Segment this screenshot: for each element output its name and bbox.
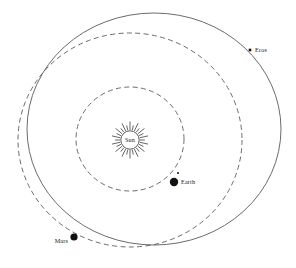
earth-marker-icon (170, 178, 178, 186)
eros-marker-group: Eros (249, 46, 268, 53)
mars-marker-group: Mars (55, 233, 78, 244)
sun-symbol-group: Sun (112, 122, 148, 159)
mars-label: Mars (55, 237, 69, 244)
earth-marker-group: Earth (170, 172, 196, 186)
eros-orbit-path (27, 13, 281, 245)
orbit-diagram: Sun Earth Mars Eros (0, 0, 296, 268)
orbit-paths-group (18, 13, 281, 247)
eros-marker-icon (249, 49, 252, 52)
sun-label: Sun (125, 136, 135, 143)
moon-marker-icon (177, 172, 179, 174)
orbit-canvas: Sun Earth Mars Eros (0, 0, 296, 268)
eros-label: Eros (255, 46, 267, 53)
earth-label: Earth (181, 178, 196, 185)
mars-marker-icon (70, 233, 77, 240)
